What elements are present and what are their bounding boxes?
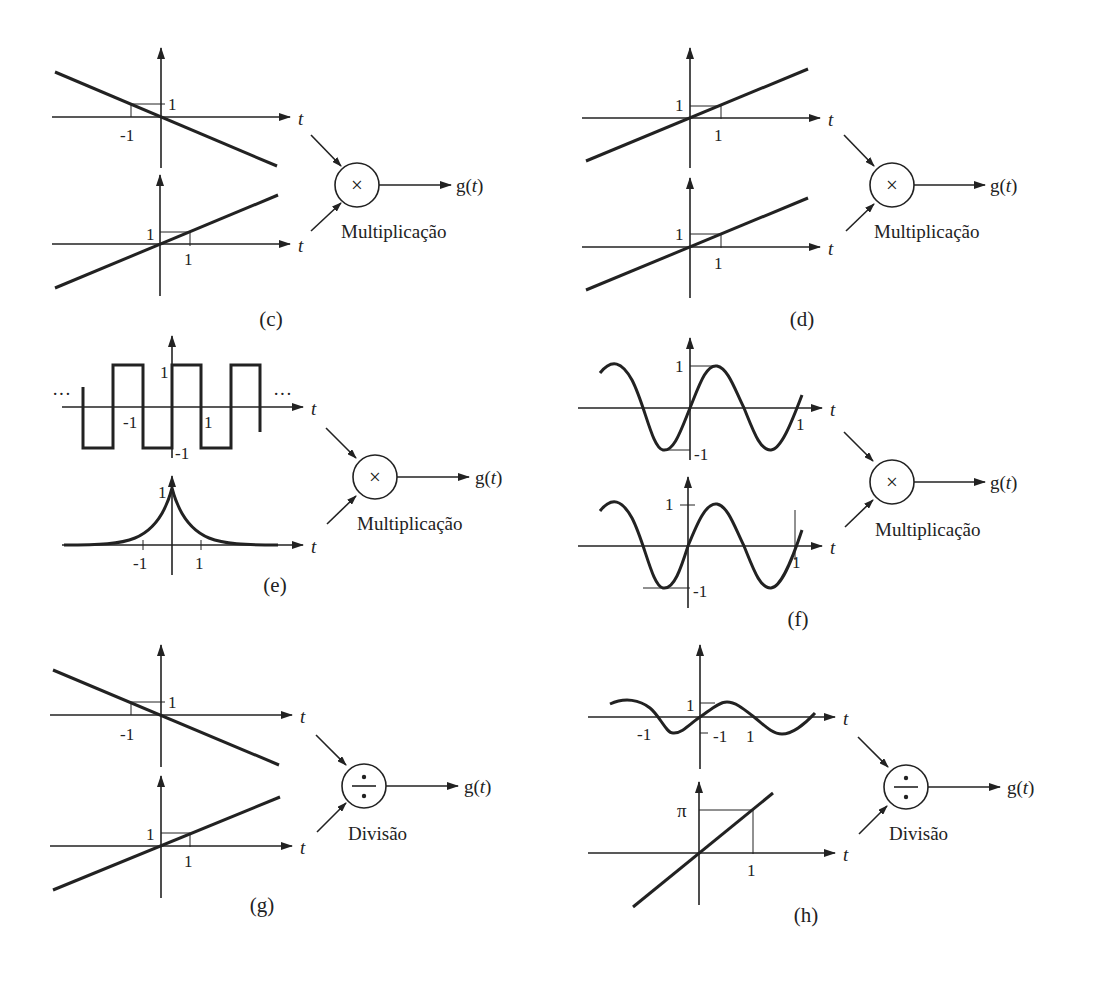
operation-label: Multiplicação [357,513,463,534]
svg-text:1: 1 [160,363,169,382]
curve-two-sided-exponential [64,488,278,545]
output-label: g(t) [990,472,1017,494]
plot-g-bottom: 1 1 t [50,776,306,898]
output-label: g(t) [475,467,502,489]
svg-text:-1: -1 [123,413,137,432]
panel-d: 1 1 t 1 1 t × g(t) Multiplicação (d) [582,48,1017,331]
svg-text:1: 1 [168,95,177,114]
svg-text:···: ··· [273,383,292,404]
svg-text:-1: -1 [693,582,707,601]
caption-c: (c) [259,307,282,331]
multiply-operator-f: × [870,460,914,504]
svg-text:×: × [886,173,898,197]
caption-g: (g) [250,893,275,917]
svg-text:t: t [830,399,836,420]
svg-text:1: 1 [665,495,674,514]
svg-text:1: 1 [675,357,684,376]
multiply-operator-e: × [353,455,397,499]
output-label: g(t) [1007,777,1034,799]
svg-text:×: × [886,470,898,494]
svg-text:-1: -1 [694,445,708,464]
svg-text:1: 1 [168,693,177,712]
plot-d-bottom: 1 1 t [582,178,834,298]
panel-c: 1 -1 t 1 1 t × g(t) Multiplicação (c) [52,48,483,331]
svg-text:-1: -1 [120,126,134,145]
svg-text:1: 1 [146,825,155,844]
svg-text:1: 1 [675,96,684,115]
plot-f-bottom: 1 -1 1 t [578,477,836,608]
svg-text:t: t [830,537,836,558]
svg-text:1: 1 [158,483,167,502]
divide-operator-h [884,765,928,809]
divide-operator-g [342,764,386,808]
svg-text:t: t [828,238,834,259]
plot-f-top: 1 -1 1 t [578,338,836,464]
plot-e-top: ··· ··· 1 -1 1 -1 t [52,336,317,463]
curve-neg-t [53,670,279,765]
svg-text:-1: -1 [133,554,147,573]
svg-text:···: ··· [52,383,71,404]
caption-f: (f) [788,607,809,631]
svg-text:1: 1 [796,415,805,434]
curve-t [586,69,808,161]
svg-text:1: 1 [146,225,155,244]
plot-d-top: 1 1 t [582,48,834,168]
svg-text:-1: -1 [175,444,189,463]
output-label: g(t) [464,776,491,798]
output-label: g(t) [456,175,483,197]
operation-label: Multiplicação [341,221,447,242]
svg-text:-1: -1 [713,727,727,746]
svg-text:t: t [311,398,317,419]
svg-text:t: t [298,108,304,129]
svg-text:t: t [311,536,317,557]
svg-text:t: t [843,708,849,729]
output-label: g(t) [990,175,1017,197]
svg-text:×: × [369,465,381,489]
panel-e: ··· ··· 1 -1 1 -1 t 1 -1 1 t × g(t) Mult… [52,336,502,597]
svg-text:t: t [298,235,304,256]
svg-text:t: t [300,837,306,858]
svg-text:t: t [843,844,849,865]
curve-neg-t [55,72,277,166]
svg-text:1: 1 [204,413,213,432]
caption-h: (h) [794,903,819,927]
svg-text:t: t [828,109,834,130]
signal-operations-figure: 1 -1 t 1 1 t × g(t) Multiplicação (c) [0,0,1094,990]
panel-f: 1 -1 1 t 1 -1 1 t × g(t) Multiplicação (… [578,338,1017,631]
curve-t [55,195,278,288]
operation-label: Multiplicação [875,519,981,540]
curve-sine [600,364,802,450]
operation-label: Divisão [348,823,407,844]
operation-label: Divisão [889,823,948,844]
plot-h-top: 1 -1 -1 1 t [588,645,849,769]
svg-text:-1: -1 [637,725,651,744]
plot-c-top: 1 -1 t [52,48,304,168]
panel-g: 1 -1 t 1 1 t g(t) Divisão (g) [50,645,491,917]
svg-text:1: 1 [747,861,756,880]
caption-e: (e) [263,573,286,597]
svg-text:1: 1 [714,254,723,273]
curve-t [53,797,280,890]
multiply-operator-c: × [335,163,379,207]
svg-text:π: π [677,800,687,821]
svg-text:1: 1 [675,225,684,244]
plot-h-bottom: π 1 t [588,782,849,907]
plot-c-bottom: 1 1 t [52,175,304,296]
curve-t [586,198,808,290]
multiply-operator-d: × [870,163,914,207]
svg-text:1: 1 [746,727,755,746]
plot-e-bottom: 1 -1 1 t [62,476,317,575]
svg-text:1: 1 [184,250,193,269]
svg-text:×: × [351,173,363,197]
panel-h: 1 -1 -1 1 t π 1 t g(t) Divisão (h) [588,645,1034,927]
svg-text:1: 1 [714,126,723,145]
svg-text:1: 1 [195,554,204,573]
svg-text:t: t [300,706,306,727]
svg-text:1: 1 [686,696,695,715]
svg-text:1: 1 [184,852,193,871]
svg-text:-1: -1 [120,725,134,744]
caption-d: (d) [790,307,815,331]
plot-g-top: 1 -1 t [50,645,306,767]
svg-text:1: 1 [792,553,801,572]
operation-label: Multiplicação [874,221,980,242]
